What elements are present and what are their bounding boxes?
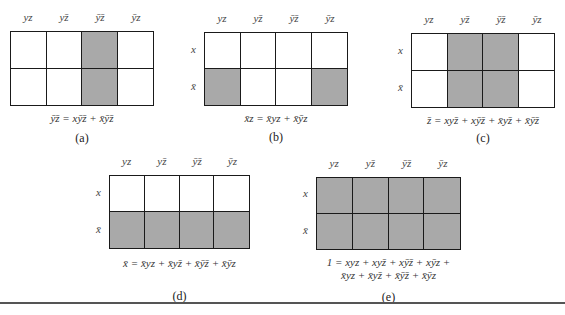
column-label: yz bbox=[109, 155, 144, 167]
shaded-cell bbox=[317, 214, 353, 250]
column-label: yz bbox=[316, 157, 352, 169]
bottom-rule bbox=[0, 302, 565, 304]
column-headers: yzyz̄ȳz̄ȳz bbox=[411, 13, 555, 25]
shaded-cell bbox=[312, 69, 348, 105]
empty-cell bbox=[412, 71, 448, 108]
figure-caption: (c) bbox=[463, 131, 503, 146]
shaded-cell bbox=[110, 212, 145, 248]
empty-cell bbox=[110, 176, 145, 212]
row-label: x bbox=[182, 43, 196, 55]
empty-cell bbox=[11, 32, 47, 69]
equation: 1 = xyz + xyz̄ + xȳz̄ + xȳz + bbox=[299, 256, 479, 268]
equation: z̄ = xyz̄ + xȳz̄ + x̄yz̄ + x̄ȳz̄ bbox=[403, 114, 563, 126]
row-label: x̄ bbox=[182, 80, 196, 92]
shaded-cell bbox=[448, 34, 484, 71]
column-label: ȳz bbox=[312, 12, 348, 24]
empty-cell bbox=[412, 34, 448, 71]
shaded-cell bbox=[205, 69, 241, 105]
empty-cell bbox=[214, 176, 249, 212]
column-headers: yzyz̄ȳz̄ȳz bbox=[204, 12, 348, 24]
shaded-cell bbox=[483, 34, 519, 71]
column-label: yz bbox=[10, 11, 46, 23]
column-label: ȳz bbox=[519, 13, 555, 25]
equation: x̄yz + x̄yz̄ + x̄ȳz̄ + x̄ȳz bbox=[299, 269, 479, 281]
column-label: yz bbox=[204, 12, 240, 24]
column-label: yz̄ bbox=[447, 13, 483, 25]
column-headers: yzyz̄ȳz̄ȳz bbox=[316, 157, 461, 169]
empty-cell bbox=[47, 69, 83, 106]
empty-cell bbox=[11, 69, 47, 106]
empty-cell bbox=[519, 34, 555, 71]
row-label: x bbox=[87, 186, 101, 198]
shaded-cell bbox=[317, 178, 353, 214]
shaded-cell bbox=[448, 71, 484, 108]
shaded-cell bbox=[82, 69, 118, 106]
kmap-grid bbox=[316, 177, 461, 250]
equation: x̄ = x̄yz + x̄yz̄ + x̄ȳz̄ + x̄ȳz bbox=[90, 257, 270, 269]
column-label: ȳz bbox=[118, 11, 154, 23]
shaded-cell bbox=[82, 32, 118, 69]
shaded-cell bbox=[424, 178, 460, 214]
shaded-cell bbox=[145, 212, 180, 248]
row-label: x̄ bbox=[87, 223, 101, 235]
kmap-grid bbox=[411, 33, 555, 108]
column-label: yz̄ bbox=[46, 11, 82, 23]
column-label: yz bbox=[411, 13, 447, 25]
shaded-cell bbox=[389, 178, 425, 214]
shaded-cell bbox=[389, 214, 425, 250]
empty-cell bbox=[118, 69, 154, 106]
kmap-grid bbox=[204, 32, 348, 106]
shaded-cell bbox=[424, 214, 460, 250]
kmap-grid bbox=[109, 175, 250, 249]
column-label: ȳz bbox=[215, 155, 250, 167]
empty-cell bbox=[241, 69, 277, 105]
shaded-cell bbox=[353, 214, 389, 250]
column-headers: yzyz̄ȳz̄ȳz bbox=[10, 11, 154, 23]
shaded-cell bbox=[180, 212, 215, 248]
column-label: yz̄ bbox=[144, 155, 179, 167]
empty-cell bbox=[118, 32, 154, 69]
empty-cell bbox=[276, 69, 312, 105]
shaded-cell bbox=[353, 178, 389, 214]
column-label: yz̄ bbox=[352, 157, 388, 169]
column-headers: yzyz̄ȳz̄ȳz bbox=[109, 155, 250, 167]
equation: ȳz̄ = xȳz̄ + x̄ȳz̄ bbox=[10, 112, 154, 124]
figure-caption: (a) bbox=[62, 131, 102, 146]
empty-cell bbox=[519, 71, 555, 108]
column-label: yz̄ bbox=[240, 12, 276, 24]
figure-caption: (b) bbox=[256, 130, 296, 145]
empty-cell bbox=[47, 32, 83, 69]
row-label: x bbox=[389, 44, 403, 56]
shaded-cell bbox=[214, 212, 249, 248]
row-label: x bbox=[294, 187, 308, 199]
row-label: x̄ bbox=[294, 224, 308, 236]
column-label: ȳz̄ bbox=[82, 11, 118, 23]
empty-cell bbox=[205, 33, 241, 69]
kmap-grid bbox=[10, 31, 154, 106]
empty-cell bbox=[312, 33, 348, 69]
column-label: ȳz̄ bbox=[483, 13, 519, 25]
row-label: x̄ bbox=[389, 81, 403, 93]
empty-cell bbox=[276, 33, 312, 69]
empty-cell bbox=[241, 33, 277, 69]
column-label: ȳz̄ bbox=[389, 157, 425, 169]
column-label: ȳz̄ bbox=[180, 155, 215, 167]
column-label: ȳz bbox=[425, 157, 461, 169]
empty-cell bbox=[180, 176, 215, 212]
equation: x̄z = x̄yz + x̄ȳz bbox=[204, 112, 348, 124]
shaded-cell bbox=[483, 71, 519, 108]
column-label: ȳz̄ bbox=[276, 12, 312, 24]
empty-cell bbox=[145, 176, 180, 212]
